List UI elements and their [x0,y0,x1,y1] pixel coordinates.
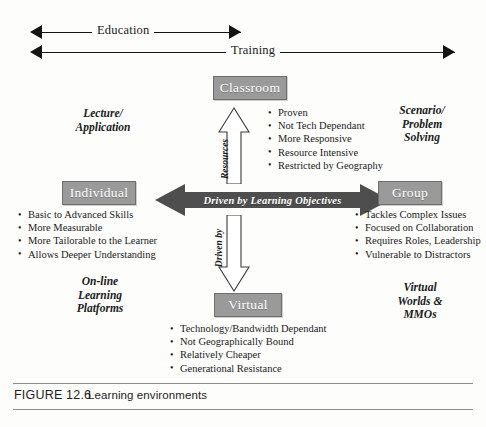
scale-label-education: Education [92,23,154,38]
corner-bottom-right-line1: Virtual [372,281,468,295]
list-item: Focused on Collaboration [355,221,481,234]
bullets-virtual: Technology/Bandwidth Dependant Not Geogr… [170,322,327,375]
corner-top-right-line1: Scenario/ [376,104,468,118]
caption-rule-bottom [13,409,473,410]
arrow-right-icon [229,25,241,39]
list-item: Restricted by Geography [268,159,383,172]
list-item: Generational Resistance [170,362,327,375]
corner-bottom-left-line2: Learning [52,289,148,303]
corner-bottom-left-line3: Platforms [52,302,148,316]
axis-label-driven-by: Driven by [214,229,224,267]
node-virtual-label: Virtual [228,297,268,312]
node-virtual[interactable]: Virtual [214,293,282,317]
list-item: Requires Roles, Leadership [355,234,481,247]
list-item: Relatively Cheaper [170,348,327,361]
corner-label-top-left: Lecture/ Application [55,107,151,134]
list-item: Not Geographically Bound [170,335,327,348]
bullets-group: Tackles Complex Issues Focused on Collab… [355,208,481,261]
node-individual-label: Individual [70,185,129,200]
figure-number: FIGURE 12.6 [14,388,91,402]
list-item: Basic to Advanced Skills [18,208,157,221]
corner-top-right-line2: Problem [376,118,468,132]
corner-label-top-right: Scenario/ Problem Solving [376,104,468,145]
list-item: More Tailorable to the Learner [18,234,157,247]
corner-bottom-right-line3: MMOs [372,308,468,322]
scale-training: Training [0,42,486,64]
list-item: More Measurable [18,221,157,234]
figure-title: Learning environments [88,389,207,401]
list-item: Proven [268,106,383,119]
bullets-classroom: Proven Not Tech Dependant More Responsiv… [268,106,383,172]
corner-bottom-left-line1: On-line [52,275,148,289]
corner-bottom-right-line2: Worlds & [372,295,468,309]
node-group[interactable]: Group [378,181,442,205]
corner-top-left-line2: Application [55,121,151,135]
scale-label-training: Training [226,43,280,58]
node-classroom[interactable]: Classroom [213,76,287,100]
corner-label-bottom-right: Virtual Worlds & MMOs [372,281,468,322]
arrow-right-icon [443,45,455,59]
node-classroom-label: Classroom [220,80,280,95]
scale-education: Education [0,22,486,44]
bullets-individual: Basic to Advanced Skills More Measurable… [18,208,157,261]
node-individual[interactable]: Individual [62,181,136,205]
list-item: Not Tech Dependant [268,119,383,132]
list-item: Technology/Bandwidth Dependant [170,322,327,335]
caption-rule-top [13,383,473,384]
corner-top-right-line3: Solving [376,131,468,145]
corner-label-bottom-left: On-line Learning Platforms [52,275,148,316]
node-group-label: Group [392,185,428,200]
list-item: Vulnerable to Distractors [355,248,481,261]
figure-learning-environments: Education Training Resources Driven by D… [0,0,486,427]
list-item: Tackles Complex Issues [355,208,481,221]
list-item: More Responsive [268,132,383,145]
list-item: Allows Deeper Understanding [18,248,157,261]
axis-label-resources: Resources [220,139,230,179]
corner-top-left-line1: Lecture/ [55,107,151,121]
list-item: Resource Intensive [268,146,383,159]
